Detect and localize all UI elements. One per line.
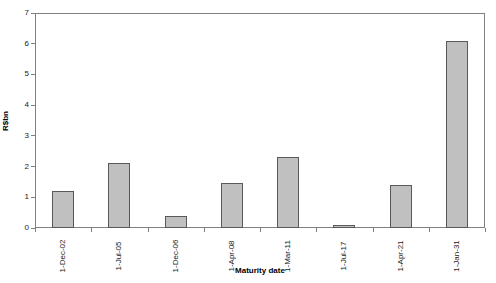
y-tick-mark	[31, 135, 35, 136]
x-axis-title: Maturity date	[160, 266, 360, 275]
y-tick-mark	[31, 197, 35, 198]
x-tick-mark	[429, 228, 430, 232]
y-tick-label: 5	[11, 70, 29, 78]
x-tick-mark	[485, 228, 486, 232]
y-tick-label: 2	[11, 163, 29, 171]
x-category-label: 1-Dec-02	[58, 236, 68, 276]
y-tick-mark	[31, 43, 35, 44]
x-category-label: 1-Jan-31	[452, 236, 462, 276]
bar	[165, 216, 187, 228]
y-tick-label: 3	[11, 132, 29, 140]
y-tick-label: 1	[11, 193, 29, 201]
y-tick-label: 6	[11, 40, 29, 48]
x-category-label: 1-Apr-21	[396, 236, 406, 276]
x-tick-mark	[260, 228, 261, 232]
y-tick-mark	[31, 105, 35, 106]
bar-chart: R$bn 012345671-Dec-021-Jul-051-Dec-061-A…	[0, 0, 496, 283]
x-tick-mark	[373, 228, 374, 232]
y-tick-label: 4	[11, 101, 29, 109]
y-tick-label: 0	[11, 224, 29, 232]
x-tick-mark	[148, 228, 149, 232]
x-tick-mark	[91, 228, 92, 232]
x-category-label: 1-Jul-05	[114, 236, 124, 276]
y-axis-title: R$bn	[1, 101, 11, 141]
bar	[221, 183, 243, 228]
bar	[52, 191, 74, 228]
y-tick-label: 7	[11, 9, 29, 17]
bar	[390, 185, 412, 228]
x-tick-mark	[204, 228, 205, 232]
bar	[446, 41, 468, 228]
y-tick-mark	[31, 74, 35, 75]
bar	[277, 157, 299, 228]
bar	[108, 163, 130, 228]
y-tick-mark	[31, 13, 35, 14]
y-tick-mark	[31, 166, 35, 167]
x-tick-mark	[316, 228, 317, 232]
x-tick-mark	[35, 228, 36, 232]
plot-area	[35, 13, 485, 228]
bar	[333, 225, 355, 228]
